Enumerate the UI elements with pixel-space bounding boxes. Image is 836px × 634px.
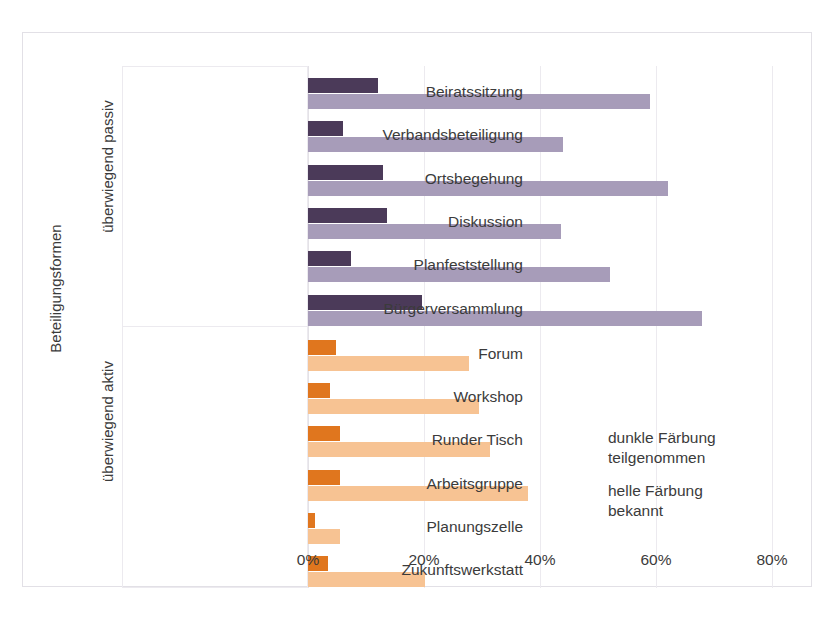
x-tick-label-40: 40% [510, 551, 570, 569]
plot-area [308, 66, 834, 588]
category-label: Forum [263, 346, 523, 362]
category-label: Planungszelle [263, 519, 523, 535]
legend-dark: dunkle Färbung teilgenommen [608, 428, 716, 469]
legend-light: helle Färbung bekannt [608, 481, 703, 522]
x-tick-label-80: 80% [742, 551, 802, 569]
group-title-passive: überwiegend passiv [99, 59, 116, 274]
legend-light-line1: helle Färbung [608, 481, 703, 501]
category-label: Arbeitsgruppe [263, 476, 523, 492]
chart-figure: Beteiligungsformen überwiegend passiv üb… [0, 0, 836, 634]
x-tick-label-60: 60% [626, 551, 686, 569]
category-label: Beiratssitzung [263, 84, 523, 100]
category-label: Diskussion [263, 214, 523, 230]
bars-layer [308, 66, 834, 588]
category-label-box-passive [123, 66, 308, 326]
x-tick-label-20: 20% [394, 551, 454, 569]
y-axis-title: Beteiligungsformen [47, 199, 64, 379]
category-label: Ortsbegehung [263, 171, 523, 187]
category-label: Workshop [263, 389, 523, 405]
category-label-box-active [123, 326, 308, 588]
category-label: Runder Tisch [263, 432, 523, 448]
legend-dark-line2: teilgenommen [608, 448, 716, 468]
category-label: Bürgerversammlung [263, 301, 523, 317]
category-label: Planfeststellung [263, 257, 523, 273]
x-tick-label-0: 0% [278, 551, 338, 569]
group-title-active: überwiegend aktiv [99, 322, 116, 522]
category-label: Verbandsbeteiligung [263, 127, 523, 143]
chart-plot-frame: Beteiligungsformen überwiegend passiv üb… [22, 32, 812, 587]
legend-light-line2: bekannt [608, 501, 703, 521]
legend-dark-line1: dunkle Färbung [608, 428, 716, 448]
